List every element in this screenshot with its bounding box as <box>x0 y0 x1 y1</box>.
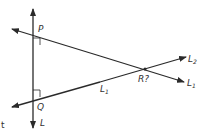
line-l2-through-q <box>12 57 186 107</box>
geometry-diagram: P Q R? L L2 L1 L1 t <box>0 0 208 134</box>
point-r-dot <box>144 68 147 71</box>
point-p-label: P <box>38 24 44 34</box>
right-angle-marker-q <box>33 90 40 97</box>
line-l-label: L <box>40 118 45 128</box>
right-angle-marker-p <box>33 38 40 45</box>
stray-character: t <box>1 120 5 130</box>
line-l1-mid-label: L1 <box>100 84 109 95</box>
point-q-label: Q <box>37 102 44 112</box>
line-l2-label: L2 <box>188 54 197 65</box>
point-r-label: R? <box>138 74 149 84</box>
line-l1-label: L1 <box>187 78 196 89</box>
line-l1-through-p <box>12 29 184 82</box>
